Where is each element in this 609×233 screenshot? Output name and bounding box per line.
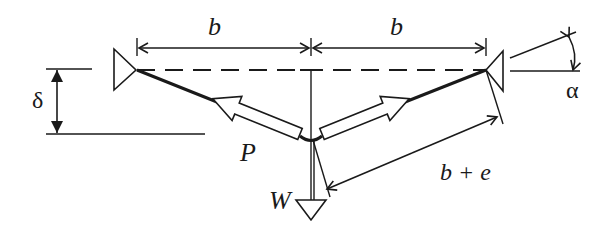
angle-label: α — [566, 78, 579, 102]
stretched-length-label: b + e — [440, 160, 491, 184]
stretched-length-dimension — [412, 117, 497, 153]
load-arrow-W-icon — [296, 200, 326, 220]
load-label: W — [269, 188, 291, 214]
span-right-label: b — [390, 14, 403, 40]
span-left-label: b — [208, 14, 221, 40]
cable-sag-diagram — [0, 0, 609, 233]
stretched-length-dimension-back — [327, 153, 412, 189]
angle-arc — [569, 37, 575, 70]
tension-arrow-left-P — [208, 87, 305, 146]
sag-label: δ — [32, 88, 43, 112]
right-pulley-icon — [486, 51, 503, 91]
tension-arrow-right — [317, 87, 414, 146]
left-pulley-icon — [114, 49, 136, 90]
cable-left-segment — [137, 70, 222, 104]
angle-inclined-line — [510, 32, 576, 58]
cable-right-segment — [400, 70, 486, 104]
tension-label: P — [240, 140, 256, 166]
